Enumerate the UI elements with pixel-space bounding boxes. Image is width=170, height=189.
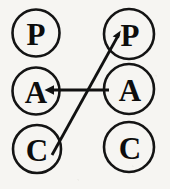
node-right-p[interactable]: P (104, 9, 154, 59)
node-right-c[interactable]: C (104, 122, 154, 172)
node-right-c-label: C (119, 131, 141, 166)
node-right-a-label: A (119, 73, 142, 108)
node-left-c-label: C (26, 133, 48, 168)
diagram-canvas: P A C P A C (0, 0, 170, 189)
node-right-a[interactable]: A (104, 64, 154, 114)
right-column: P A C (104, 9, 154, 172)
node-right-p-label: P (121, 18, 140, 53)
node-left-a-label: A (25, 75, 48, 110)
pac-diagram: P A C P A C (0, 0, 170, 189)
node-left-p[interactable]: P (13, 10, 60, 57)
node-left-p-label: P (27, 17, 46, 52)
